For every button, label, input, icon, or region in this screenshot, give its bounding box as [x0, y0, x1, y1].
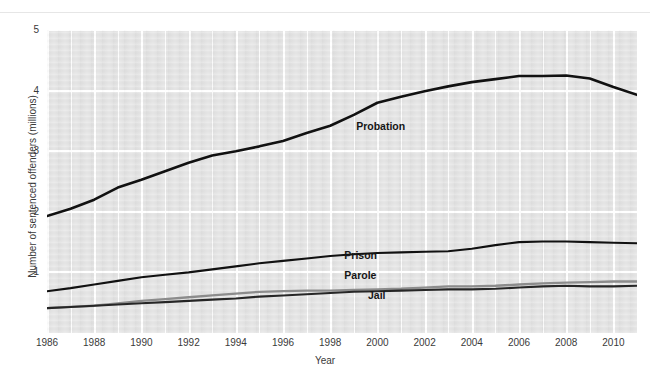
- x-tick-label: 2010: [602, 338, 624, 348]
- x-tick-label: 2000: [366, 338, 388, 348]
- y-axis-title: Number of sentenced offenders (millions): [27, 62, 38, 312]
- x-axis-ticks: 1986198819901992199419961998200020022004…: [0, 0, 650, 371]
- series-label-prison: Prison: [344, 250, 377, 261]
- series-label-parole: Parole: [344, 270, 376, 281]
- x-tick-label: 2008: [555, 338, 577, 348]
- x-tick-label: 1992: [177, 338, 199, 348]
- x-tick-label: 1990: [130, 338, 152, 348]
- x-tick-label: 1998: [319, 338, 341, 348]
- x-tick-label: 1994: [225, 338, 247, 348]
- x-tick-label: 1986: [36, 338, 58, 348]
- x-tick-label: 1996: [272, 338, 294, 348]
- series-label-jail: Jail: [368, 290, 386, 301]
- chart-figure: 12345 1986198819901992199419961998200020…: [0, 0, 650, 371]
- x-tick-label: 2002: [413, 338, 435, 348]
- x-tick-label: 1988: [83, 338, 105, 348]
- x-tick-label: 2006: [508, 338, 530, 348]
- x-tick-label: 2004: [461, 338, 483, 348]
- x-axis-title: Year: [0, 355, 650, 366]
- series-label-probation: Probation: [356, 121, 405, 132]
